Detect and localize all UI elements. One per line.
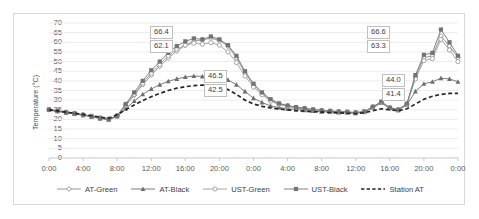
- legend-label: UST-Green: [231, 185, 269, 194]
- legend-item-at-black[interactable]: AT-Black: [130, 184, 189, 194]
- data-point-open-circle: [217, 43, 221, 47]
- data-point-open-circle: [192, 41, 196, 45]
- data-label-d1-max-ust-green: 42.5: [204, 84, 227, 97]
- data-point-filled-square: [405, 102, 409, 106]
- data-point-filled-square: [175, 44, 179, 48]
- data-point-open-circle: [209, 41, 213, 45]
- data-point-filled-square: [234, 54, 238, 58]
- x-tick-label: 20:00: [407, 164, 441, 173]
- legend-label: UST-Black: [312, 185, 348, 194]
- legend-marker-icon: [130, 184, 156, 194]
- data-point-filled-triangle: [149, 86, 154, 91]
- data-point-filled-square: [132, 90, 136, 94]
- data-label-d1-max-at-green: 62.1: [150, 40, 173, 53]
- data-point-open-circle: [456, 59, 460, 63]
- legend-marker-icon: [360, 184, 386, 194]
- data-point-filled-square: [192, 36, 196, 40]
- data-point-filled-square: [456, 54, 460, 58]
- data-point-open-circle: [226, 50, 230, 54]
- data-point-filled-square: [447, 40, 451, 44]
- data-point-open-circle: [447, 48, 451, 52]
- x-tick-label: 8:00: [100, 164, 134, 173]
- data-point-filled-triangle: [439, 76, 444, 81]
- data-point-filled-square: [268, 97, 272, 101]
- plot-area: Temperature (°C) 70656055504540353025201…: [14, 14, 466, 206]
- chart-legend: AT-GreenAT-BlackUST-GreenUST-BlackStatio…: [14, 180, 466, 198]
- data-point-filled-square: [430, 51, 434, 55]
- data-label-d2-max-ust-green: 41.4: [382, 88, 405, 101]
- data-point-filled-triangle: [234, 82, 239, 87]
- data-point-filled-square: [311, 107, 315, 111]
- data-point-open-circle: [213, 187, 217, 191]
- x-tick-label: 16:00: [373, 164, 407, 173]
- data-point-filled-triangle: [251, 96, 256, 101]
- data-label-d2-max-at-black: 44.0: [382, 74, 405, 87]
- data-point-filled-square: [371, 105, 375, 109]
- data-point-filled-square: [141, 79, 145, 83]
- data-point-open-circle: [243, 74, 247, 78]
- data-point-filled-square: [294, 105, 298, 109]
- data-point-open-circle: [234, 60, 238, 64]
- x-tick-label: 12:00: [134, 164, 168, 173]
- data-point-open-circle: [439, 37, 443, 41]
- data-point-filled-square: [183, 39, 187, 43]
- data-point-filled-square: [251, 82, 255, 86]
- legend-marker-icon: [202, 184, 228, 194]
- data-point-filled-square: [439, 27, 443, 31]
- legend-item-at-green[interactable]: AT-Green: [56, 184, 117, 194]
- data-label-d1-max-at-black: 46.5: [204, 70, 227, 83]
- data-point-open-circle: [183, 43, 187, 47]
- x-tick-label: 0:00: [32, 164, 66, 173]
- data-point-filled-square: [277, 101, 281, 105]
- data-point-filled-square: [285, 103, 289, 107]
- data-point-filled-square: [149, 68, 153, 72]
- legend-label: Station AT: [389, 185, 423, 194]
- data-label-d2-max-at-green: 63.3: [367, 40, 390, 53]
- x-tick-label: 20:00: [202, 164, 236, 173]
- data-point-filled-square: [303, 106, 307, 110]
- data-point-filled-square: [226, 43, 230, 47]
- legend-item-station-at[interactable]: Station AT: [360, 184, 423, 194]
- x-tick-label: 0:00: [441, 164, 475, 173]
- data-point-open-diamond: [67, 187, 72, 192]
- x-tick-label: 8:00: [305, 164, 339, 173]
- data-label-d2-max-ust-black: 66.6: [367, 26, 390, 39]
- legend-marker-icon: [56, 184, 82, 194]
- x-tick-label: 16:00: [168, 164, 202, 173]
- data-point-open-circle: [200, 42, 204, 46]
- data-point-filled-square: [260, 90, 264, 94]
- data-point-filled-square: [124, 102, 128, 106]
- data-point-open-circle: [430, 57, 434, 61]
- data-point-filled-triangle: [140, 92, 145, 97]
- data-point-filled-square: [209, 34, 213, 38]
- legend-label: AT-Black: [159, 185, 189, 194]
- legend-label: AT-Green: [85, 185, 117, 194]
- legend-item-ust-black[interactable]: UST-Black: [283, 184, 348, 194]
- data-point-filled-square: [200, 37, 204, 41]
- data-label-d1-max-ust-black: 66.4: [150, 26, 173, 39]
- legend-item-ust-green[interactable]: UST-Green: [202, 184, 269, 194]
- data-point-filled-square: [243, 69, 247, 73]
- data-point-filled-square: [217, 37, 221, 41]
- data-point-filled-triangle: [132, 99, 137, 104]
- x-tick-label: 12:00: [339, 164, 373, 173]
- x-tick-label: 4:00: [66, 164, 100, 173]
- data-point-filled-square: [422, 53, 426, 57]
- legend-marker-icon: [283, 184, 309, 194]
- data-point-filled-square: [294, 187, 298, 191]
- x-tick-label: 0:00: [237, 164, 271, 173]
- data-point-filled-square: [413, 73, 417, 77]
- x-tick-label: 4:00: [271, 164, 305, 173]
- chart-container: Temperature (°C) 70656055504540353025201…: [13, 13, 465, 205]
- data-point-filled-square: [158, 59, 162, 63]
- x-axis-ticks: 0:004:008:0012:0016:0020:000:004:008:001…: [62, 164, 458, 180]
